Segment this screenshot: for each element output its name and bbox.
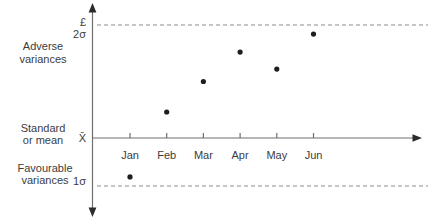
data-point-jun [311, 31, 316, 36]
mean-label: X̄ [79, 132, 87, 144]
month-label-jan: Jan [121, 149, 139, 161]
y-axis-up-arrowhead [89, 3, 97, 13]
month-label-apr: Apr [232, 149, 249, 161]
data-point-may [274, 66, 279, 71]
y-axis-down-arrowhead [89, 208, 97, 218]
month-label-feb: Feb [157, 149, 176, 161]
adverse-variances-label-line1: Adverse [23, 40, 63, 52]
data-points [127, 31, 316, 179]
x-axis-month-labels: JanFebMarAprMayJun [121, 149, 322, 161]
data-point-feb [164, 109, 169, 114]
data-point-jan [127, 174, 132, 179]
month-label-mar: Mar [194, 149, 213, 161]
x-axis-right-arrowhead [413, 134, 423, 142]
month-label-may: May [266, 149, 287, 161]
favourable-variances-label-line2: variances [21, 174, 69, 186]
currency-label: £ [80, 16, 86, 28]
lower-limit-label: 1σ [73, 175, 86, 187]
standard-or-mean-label-line2: or mean [23, 134, 63, 146]
chart-svg: £ 2σ X̄ 1σ Adverse variances Standard or… [0, 0, 439, 223]
adverse-variances-label-line2: variances [19, 53, 67, 65]
x-axis-ticks [130, 133, 314, 138]
upper-limit-label: 2σ [73, 28, 86, 40]
month-label-jun: Jun [305, 149, 323, 161]
standard-or-mean-label-line1: Standard [21, 122, 66, 134]
data-point-mar [201, 79, 206, 84]
favourable-variances-label-line1: Favourable [17, 162, 72, 174]
data-point-apr [238, 50, 243, 55]
variance-control-chart: £ 2σ X̄ 1σ Adverse variances Standard or… [0, 0, 439, 223]
